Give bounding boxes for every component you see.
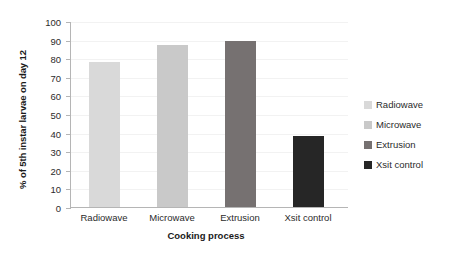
bar[interactable] [225, 41, 256, 207]
x-axis-category-label: Xsit control [274, 212, 342, 223]
legend-label: Radiowave [376, 99, 423, 110]
legend-label: Xsit control [376, 159, 423, 170]
y-axis-title: % of 5th instar larvae on day 12 [17, 20, 28, 220]
x-axis-category-labels: RadiowaveMicrowaveExtrusionXsit control [70, 212, 342, 223]
legend-item[interactable]: Microwave [364, 119, 423, 130]
x-axis-category-label: Microwave [138, 212, 206, 223]
y-axis-tick-label: 70 [50, 72, 61, 83]
x-axis-category-label: Radiowave [70, 212, 138, 223]
bar-slot [274, 22, 342, 207]
bar[interactable] [89, 62, 120, 207]
y-axis-tick-label: 80 [50, 54, 61, 65]
y-axis-tick-label: 60 [50, 91, 61, 102]
chart-legend: RadiowaveMicrowaveExtrusionXsit control [364, 99, 423, 170]
y-axis-tick-label: 30 [50, 147, 61, 158]
legend-swatch-icon [364, 141, 372, 149]
legend-swatch-icon [364, 101, 372, 109]
bar-slot [206, 22, 274, 207]
x-axis-category-label: Extrusion [206, 212, 274, 223]
legend-item[interactable]: Extrusion [364, 139, 423, 150]
y-axis-tick-label: 0 [56, 203, 61, 214]
legend-label: Extrusion [376, 139, 416, 150]
legend-item[interactable]: Xsit control [364, 159, 423, 170]
bar-series [70, 22, 342, 207]
bar[interactable] [293, 136, 324, 207]
y-axis-tick-label: 20 [50, 165, 61, 176]
y-axis-tick [66, 208, 71, 209]
legend-swatch-icon [364, 161, 372, 169]
legend-item[interactable]: Radiowave [364, 99, 423, 110]
plot-area: 1009080706050403020100 [70, 22, 342, 208]
legend-label: Microwave [376, 119, 421, 130]
y-axis-tick-label: 100 [45, 17, 61, 28]
x-axis-line [70, 207, 348, 208]
bar-chart-figure: % of 5th instar larvae on day 12 1009080… [0, 0, 462, 260]
x-axis-title: Cooking process [70, 230, 342, 241]
y-axis-tick-label: 40 [50, 128, 61, 139]
y-axis-tick-label: 10 [50, 184, 61, 195]
bar-slot [138, 22, 206, 207]
bar[interactable] [157, 45, 188, 207]
legend-swatch-icon [364, 121, 372, 129]
bar-slot [70, 22, 138, 207]
y-axis-tick-label: 50 [50, 110, 61, 121]
y-axis-tick-label: 90 [50, 35, 61, 46]
